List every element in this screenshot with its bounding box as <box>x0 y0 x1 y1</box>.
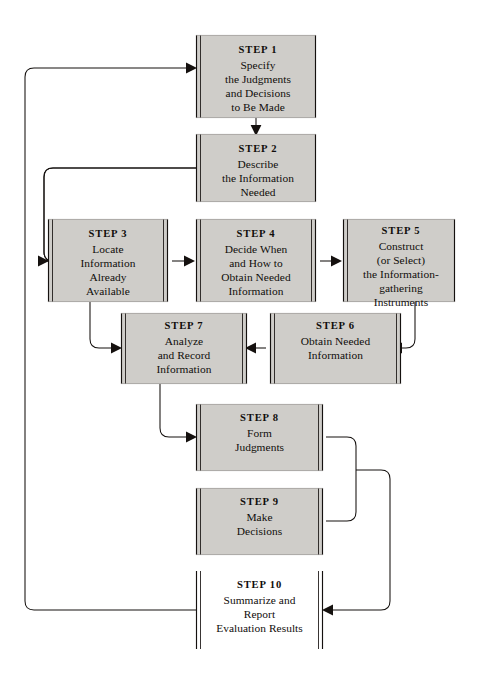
flowchart-diagram: STEP 1 Specify the Judgments and Decisio… <box>0 0 496 690</box>
node-step3[interactable] <box>48 219 168 302</box>
node-step8[interactable] <box>196 404 323 471</box>
node-layer <box>48 35 455 649</box>
node-step5[interactable] <box>343 219 455 302</box>
connector-step4-to-step5 <box>320 256 342 267</box>
node-step9[interactable] <box>196 488 323 555</box>
connector-step6-to-step7 <box>245 343 266 354</box>
connector-step7-to-step8 <box>160 384 197 442</box>
flowchart-canvas <box>0 0 496 690</box>
connector-step1-to-step2 <box>251 118 262 136</box>
node-step7[interactable] <box>121 313 247 384</box>
connector-step3-to-step4 <box>172 256 195 267</box>
connector-step8-step9-to-step10 <box>322 437 390 615</box>
connector-step3-to-step7 <box>90 302 122 353</box>
node-step4[interactable] <box>196 219 316 302</box>
node-step1[interactable] <box>196 35 316 118</box>
node-step10[interactable] <box>196 571 323 649</box>
node-step6[interactable] <box>270 313 401 384</box>
node-step2[interactable] <box>196 134 316 202</box>
